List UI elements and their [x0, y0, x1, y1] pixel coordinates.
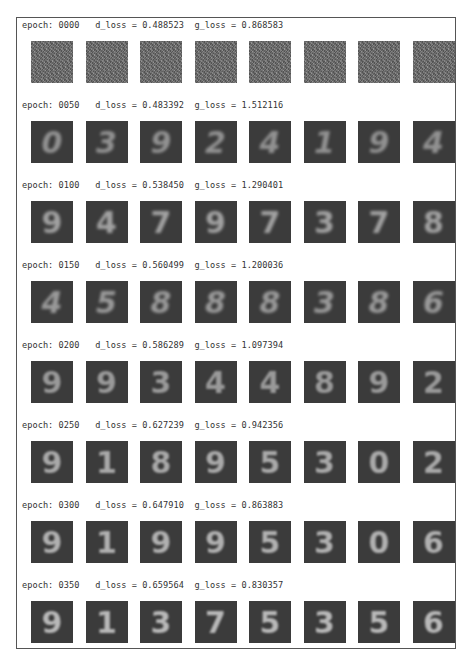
generated-digit-image: 5	[249, 601, 291, 643]
digit-glyph: 5	[249, 601, 291, 643]
generated-samples-row: 45888386	[31, 281, 451, 323]
digit-glyph: 6	[413, 601, 455, 643]
digit-glyph: 7	[140, 201, 182, 243]
generated-digit-image: 3	[304, 201, 346, 243]
generated-digit-image: 3	[304, 441, 346, 483]
generated-samples-row: 91895302	[31, 441, 451, 483]
generated-digit-image: 8	[195, 281, 237, 323]
generated-samples-row: 91375356	[31, 601, 451, 643]
digit-glyph: 8	[140, 281, 182, 323]
generated-digit-image: 9	[195, 441, 237, 483]
generated-digit-image: 6	[413, 601, 455, 643]
digit-glyph: 3	[86, 121, 128, 163]
epoch-loss-label: epoch: 0200 d_loss = 0.586289 g_loss = 1…	[22, 340, 283, 350]
digit-glyph: 1	[86, 441, 128, 483]
digit-glyph: 8	[140, 441, 182, 483]
epoch-loss-label: epoch: 0100 d_loss = 0.538450 g_loss = 1…	[22, 180, 283, 190]
noise-sample-image	[31, 41, 73, 83]
digit-glyph: 2	[413, 441, 455, 483]
generated-digit-image: 9	[358, 361, 400, 403]
generated-digit-image: 7	[358, 201, 400, 243]
digit-glyph: 9	[86, 361, 128, 403]
digit-glyph: 3	[304, 521, 346, 563]
generated-digit-image: 0	[358, 441, 400, 483]
generated-digit-image: 9	[358, 121, 400, 163]
epoch-loss-label: epoch: 0000 d_loss = 0.488523 g_loss = 0…	[22, 20, 283, 30]
digit-glyph: 9	[31, 521, 73, 563]
digit-glyph: 9	[195, 201, 237, 243]
digit-glyph: 5	[249, 521, 291, 563]
digit-glyph: 5	[358, 601, 400, 643]
digit-glyph: 4	[31, 281, 73, 323]
generated-digit-image: 9	[195, 521, 237, 563]
generated-digit-image: 3	[86, 121, 128, 163]
generated-digit-image: 9	[140, 521, 182, 563]
generated-digit-image: 8	[304, 361, 346, 403]
digit-glyph: 4	[86, 201, 128, 243]
generated-samples-row: 99344892	[31, 361, 451, 403]
noise-sample-image	[304, 41, 346, 83]
generated-samples-row: 03924194	[31, 121, 451, 163]
noise-sample-image	[358, 41, 400, 83]
digit-glyph: 8	[195, 281, 237, 323]
digit-glyph: 9	[358, 121, 400, 163]
epoch-loss-label: epoch: 0350 d_loss = 0.659564 g_loss = 0…	[22, 580, 283, 590]
digit-glyph: 9	[31, 601, 73, 643]
generated-digit-image: 4	[249, 361, 291, 403]
epoch-block: epoch: 0250 d_loss = 0.627239 g_loss = 0…	[17, 418, 455, 498]
digit-glyph: 1	[86, 601, 128, 643]
epoch-block: epoch: 0050 d_loss = 0.483392 g_loss = 1…	[17, 98, 455, 178]
digit-glyph: 1	[86, 521, 128, 563]
digit-glyph: 8	[249, 281, 291, 323]
digit-glyph: 9	[140, 521, 182, 563]
generated-digit-image: 0	[31, 121, 73, 163]
digit-glyph: 3	[304, 201, 346, 243]
epoch-loss-label: epoch: 0050 d_loss = 0.483392 g_loss = 1…	[22, 100, 283, 110]
epoch-block: epoch: 0150 d_loss = 0.560499 g_loss = 1…	[17, 258, 455, 338]
generated-digit-image: 7	[140, 201, 182, 243]
generated-digit-image: 3	[140, 361, 182, 403]
generated-digit-image: 2	[195, 121, 237, 163]
generated-digit-image: 9	[31, 521, 73, 563]
generated-digit-image: 7	[195, 601, 237, 643]
digit-glyph: 0	[31, 121, 73, 163]
generated-digit-image: 7	[249, 201, 291, 243]
digit-glyph: 3	[140, 361, 182, 403]
digit-glyph: 8	[413, 201, 455, 243]
generated-samples-row: 91995306	[31, 521, 451, 563]
epoch-block: epoch: 0100 d_loss = 0.538450 g_loss = 1…	[17, 178, 455, 258]
generated-digit-image: 3	[140, 601, 182, 643]
generated-digit-image: 9	[31, 201, 73, 243]
digit-glyph: 7	[195, 601, 237, 643]
generated-digit-image: 5	[249, 441, 291, 483]
generated-digit-image: 3	[304, 601, 346, 643]
generated-digit-image: 5	[358, 601, 400, 643]
epoch-block: epoch: 0200 d_loss = 0.586289 g_loss = 1…	[17, 338, 455, 418]
generated-digit-image: 3	[304, 521, 346, 563]
generated-digit-image: 5	[249, 521, 291, 563]
digit-glyph: 9	[195, 441, 237, 483]
generated-digit-image: 9	[31, 361, 73, 403]
generated-digit-image: 9	[31, 441, 73, 483]
digit-glyph: 9	[31, 361, 73, 403]
noise-sample-image	[86, 41, 128, 83]
digit-glyph: 9	[195, 521, 237, 563]
generated-digit-image: 8	[140, 281, 182, 323]
generated-digit-image: 2	[413, 441, 455, 483]
digit-glyph: 5	[249, 441, 291, 483]
generated-digit-image: 4	[86, 201, 128, 243]
noise-sample-image	[413, 41, 455, 83]
generated-digit-image: 5	[86, 281, 128, 323]
digit-glyph: 9	[31, 441, 73, 483]
digit-glyph: 1	[304, 121, 346, 163]
digit-glyph: 3	[304, 601, 346, 643]
generated-digit-image: 3	[304, 281, 346, 323]
generated-digit-image: 4	[31, 281, 73, 323]
epoch-loss-label: epoch: 0250 d_loss = 0.627239 g_loss = 0…	[22, 420, 283, 430]
digit-glyph: 8	[304, 361, 346, 403]
generated-samples-row: 94797378	[31, 201, 451, 243]
generated-digit-image: 1	[86, 441, 128, 483]
epoch-block: epoch: 0300 d_loss = 0.647910 g_loss = 0…	[17, 498, 455, 578]
digit-glyph: 5	[86, 281, 128, 323]
digit-glyph: 3	[140, 601, 182, 643]
